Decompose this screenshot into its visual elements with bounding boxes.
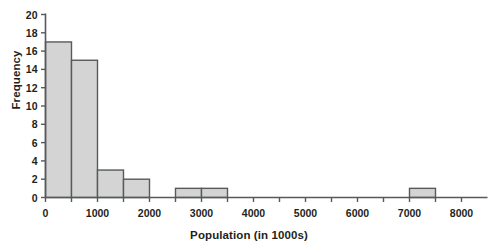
x-axis-tick-label: 8000 (432, 208, 492, 219)
histogram-bar (46, 42, 72, 198)
y-axis-tick-label: 12 (16, 82, 38, 93)
y-axis-tick-label: 0 (16, 192, 38, 203)
histogram-bar (98, 170, 124, 197)
y-axis-tick-label: 18 (16, 28, 38, 39)
x-axis-tick-label: 4000 (224, 208, 284, 219)
x-axis-tick-label: 6000 (328, 208, 388, 219)
x-axis-tick-label: 7000 (380, 208, 440, 219)
y-axis-tick-label: 14 (16, 64, 38, 75)
y-axis-tick-label: 8 (16, 119, 38, 130)
histogram-bar (124, 179, 150, 197)
histogram-bar (410, 188, 436, 197)
histogram-chart: Frequency Population (in 1000s) 02468101… (0, 0, 498, 252)
histogram-bar (72, 60, 98, 197)
x-axis-tick-label: 0 (16, 208, 76, 219)
histogram-bar (176, 188, 202, 197)
y-axis-tick-label: 6 (16, 137, 38, 148)
bars-layer (46, 42, 436, 198)
y-axis-tick-label: 2 (16, 174, 38, 185)
x-axis-tick-label: 5000 (276, 208, 336, 219)
x-axis-title: Population (in 1000s) (0, 229, 498, 241)
x-axis-tick-label: 1000 (68, 208, 128, 219)
x-axis-tick-label: 3000 (172, 208, 232, 219)
y-axis-tick-label: 4 (16, 156, 38, 167)
x-axis-tick-label: 2000 (120, 208, 180, 219)
y-axis-tick-label: 10 (16, 101, 38, 112)
y-axis-tick-label: 16 (16, 46, 38, 57)
y-axis-tick-label: 20 (16, 9, 38, 20)
histogram-bar (202, 188, 228, 197)
